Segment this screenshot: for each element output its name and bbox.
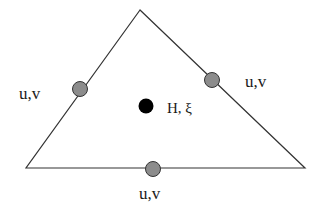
right-edge-node — [205, 73, 220, 88]
bottom-edge-node — [146, 162, 161, 177]
center-node-label: H, ξ — [167, 101, 192, 116]
right-node-label: u,v — [245, 73, 266, 90]
left-node-label: u,v — [19, 85, 40, 102]
center-node — [139, 99, 154, 114]
bottom-node-label: u,v — [139, 185, 160, 202]
left-edge-node — [73, 82, 88, 97]
